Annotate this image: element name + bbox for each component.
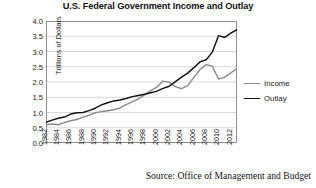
y-tick-label: 3.5 bbox=[32, 32, 43, 41]
legend-item-outlay[interactable]: Outlay bbox=[244, 91, 314, 106]
y-tick-label: 2.0 bbox=[32, 78, 43, 87]
x-tick-label: 2002 bbox=[163, 129, 172, 145]
legend-swatch-income bbox=[244, 83, 260, 84]
x-tick-label: 1990 bbox=[89, 129, 98, 145]
x-tick-label: 1994 bbox=[114, 129, 123, 145]
chart-figure: U.S. Federal Government Income and Outla… bbox=[0, 0, 316, 188]
x-tick-label: 1996 bbox=[126, 129, 135, 145]
source-caption: Source: Office of Management and Budget bbox=[0, 170, 311, 181]
x-tick-label: 2006 bbox=[188, 129, 197, 145]
x-tick-label: 2010 bbox=[212, 129, 221, 145]
x-tick-label: 2008 bbox=[200, 129, 209, 145]
y-tick-label: 3.0 bbox=[32, 47, 43, 56]
gridlines bbox=[46, 21, 237, 143]
x-tick-label: 1988 bbox=[77, 129, 86, 145]
x-tick-label: 1982 bbox=[40, 129, 49, 145]
y-tick-label: 1.5 bbox=[32, 93, 43, 102]
y-axis-title: Trillions of Dollars bbox=[54, 4, 65, 88]
chart-title: U.S. Federal Government Income and Outla… bbox=[0, 1, 316, 11]
y-tick-label: 4.0 bbox=[32, 17, 43, 26]
plot-canvas bbox=[46, 21, 237, 143]
y-tick-label: 1.0 bbox=[32, 108, 43, 117]
plot-area: Trillions of Dollars 0.00.51.01.52.02.53… bbox=[46, 21, 237, 143]
x-tick-label: 1986 bbox=[64, 129, 73, 145]
legend-swatch-outlay bbox=[244, 98, 260, 99]
x-tick-label: 1984 bbox=[52, 129, 61, 145]
x-tick-label: 2004 bbox=[175, 129, 184, 145]
legend-label: Outlay bbox=[264, 94, 287, 103]
chart-legend: IncomeOutlay bbox=[244, 76, 314, 106]
x-tick-label: 2000 bbox=[151, 129, 160, 145]
legend-item-income[interactable]: Income bbox=[244, 76, 314, 91]
x-tick-label: 1992 bbox=[101, 129, 110, 145]
legend-label: Income bbox=[264, 79, 290, 88]
x-tick-label: 2012 bbox=[225, 129, 234, 145]
y-tick-label: 2.5 bbox=[32, 62, 43, 71]
x-tick-label: 1998 bbox=[138, 129, 147, 145]
series-line-outlay bbox=[46, 30, 237, 123]
data-series-layer bbox=[46, 30, 237, 125]
